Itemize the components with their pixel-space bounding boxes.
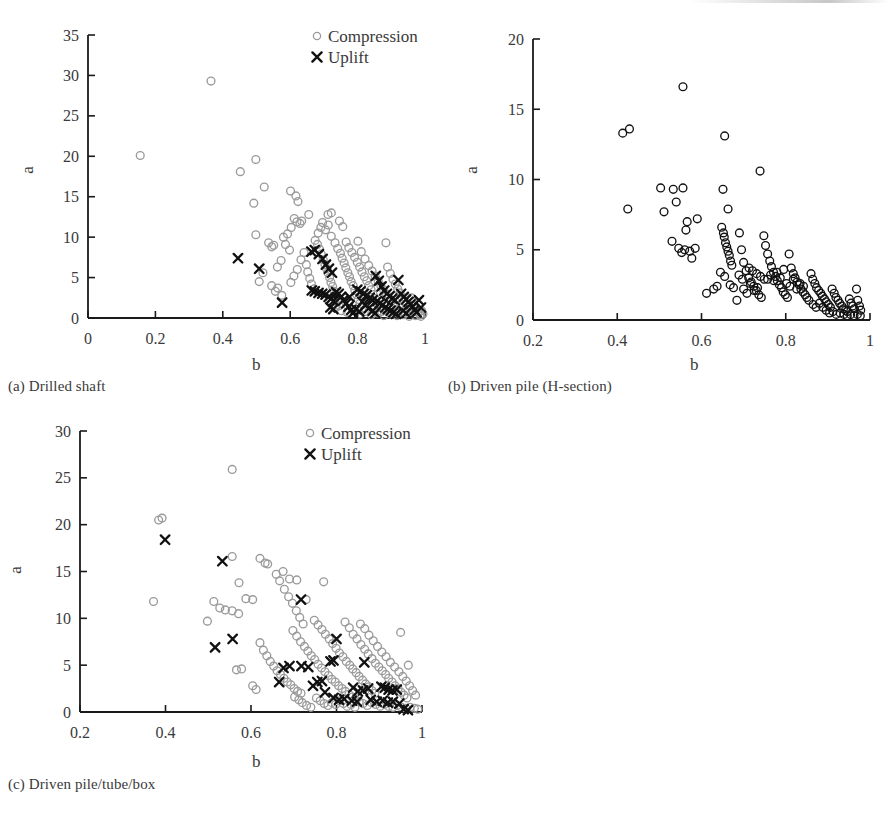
svg-text:1: 1 — [421, 330, 429, 347]
svg-text:0: 0 — [63, 704, 71, 721]
svg-text:20: 20 — [508, 31, 524, 48]
panel-b-caption: (b) Driven pile (H-section) — [448, 378, 612, 395]
svg-a-legend: CompressionUplift — [312, 27, 418, 67]
panel-c-plot: 0510152025300.20.40.60.81CompressionUpli… — [0, 400, 450, 760]
panel-a-x-axis-label: b — [252, 355, 261, 375]
panel-c-caption: (c) Driven pile/tube/box — [8, 776, 155, 793]
svg-text:30: 30 — [55, 423, 71, 440]
svg-text:15: 15 — [63, 188, 79, 205]
svg-text:1: 1 — [866, 332, 874, 349]
panel-c-y-axis-label: a — [6, 566, 26, 574]
svg-c-y-ticks: 051015202530 — [55, 423, 87, 721]
svg-c-x-ticks: 0.20.40.60.81 — [70, 705, 426, 741]
svg-text:20: 20 — [63, 148, 79, 165]
svg-text:0: 0 — [71, 310, 79, 327]
svg-text:35: 35 — [63, 27, 79, 44]
svg-text:Uplift: Uplift — [321, 445, 362, 464]
svg-c-legend: CompressionUplift — [305, 424, 411, 464]
panel-c-driven-pile-tube-box: 0510152025300.20.40.60.81CompressionUpli… — [0, 400, 450, 815]
panel-a-drilled-shaft: 0510152025303500.20.40.60.81CompressionU… — [0, 0, 450, 400]
svg-text:5: 5 — [71, 269, 79, 286]
svg-text:25: 25 — [63, 107, 79, 124]
svg-text:0.8: 0.8 — [776, 332, 796, 349]
svg-text:0.6: 0.6 — [692, 332, 712, 349]
svg-text:20: 20 — [55, 516, 71, 533]
svg-text:Compression: Compression — [328, 27, 418, 46]
svg-text:15: 15 — [508, 101, 524, 118]
svg-text:10: 10 — [55, 610, 71, 627]
svg-text:10: 10 — [508, 171, 524, 188]
svg-text:25: 25 — [55, 469, 71, 486]
svg-text:0.4: 0.4 — [156, 724, 176, 741]
svg-b-axes — [533, 39, 870, 320]
svg-text:1: 1 — [418, 724, 426, 741]
svg-c-axes — [80, 431, 422, 712]
svg-text:15: 15 — [55, 563, 71, 580]
svg-b-y-ticks: 05101520 — [508, 31, 540, 329]
svg-text:5: 5 — [516, 241, 524, 258]
panel-b-driven-pile-h-section: 051015200.20.40.60.81 a b (b) Driven pil… — [440, 0, 889, 400]
svg-c-series-compression — [150, 466, 422, 714]
svg-a-y-ticks: 05101520253035 — [63, 27, 95, 327]
svg-b-x-ticks: 0.20.40.60.81 — [523, 313, 874, 349]
svg-text:0: 0 — [516, 312, 524, 329]
svg-text:0.2: 0.2 — [70, 724, 90, 741]
svg-text:0.6: 0.6 — [280, 330, 300, 347]
svg-text:0.4: 0.4 — [607, 332, 627, 349]
panel-a-plot: 0510152025303500.20.40.60.81CompressionU… — [0, 0, 450, 360]
svg-text:Compression: Compression — [321, 424, 411, 443]
svg-text:0.8: 0.8 — [348, 330, 368, 347]
svg-text:5: 5 — [63, 657, 71, 674]
svg-text:30: 30 — [63, 67, 79, 84]
svg-text:0.4: 0.4 — [213, 330, 233, 347]
panel-b-x-axis-label: b — [690, 355, 699, 375]
panel-b-y-axis-label: a — [462, 166, 482, 174]
svg-text:0: 0 — [84, 330, 92, 347]
panel-a-y-axis-label: a — [18, 166, 38, 174]
svg-text:0.8: 0.8 — [327, 724, 347, 741]
panel-a-caption: (a) Drilled shaft — [8, 378, 106, 395]
svg-text:0.2: 0.2 — [523, 332, 543, 349]
svg-text:Uplift: Uplift — [328, 48, 369, 67]
panel-b-plot: 051015200.20.40.60.81 — [440, 0, 889, 360]
svg-b-series-compression — [619, 83, 865, 320]
panel-c-x-axis-label: b — [252, 752, 261, 772]
svg-text:0.2: 0.2 — [145, 330, 165, 347]
svg-text:0.6: 0.6 — [241, 724, 261, 741]
svg-text:10: 10 — [63, 229, 79, 246]
